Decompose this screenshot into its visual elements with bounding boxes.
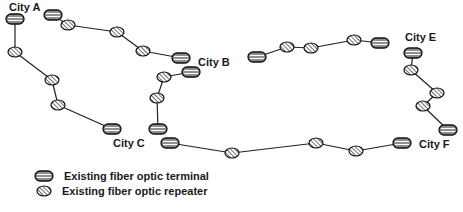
legend-repeater-icon (37, 186, 51, 196)
fiber-link-city-a-to-city-c-1 (15, 52, 52, 80)
legend-label-terminal: Existing fiber optic terminal (64, 170, 209, 182)
fiber-repeater-icon (61, 20, 75, 30)
fiber-terminal-icon (103, 124, 121, 134)
fiber-repeater-icon (110, 27, 124, 37)
city-label-b: City B (198, 56, 230, 68)
fiber-terminal-icon (248, 52, 266, 62)
fiber-terminal-icon (404, 48, 422, 58)
fiber-link-city-c-to-city-f-1 (232, 143, 316, 153)
city-label-c: City C (113, 137, 145, 149)
fiber-terminal-icon (371, 38, 389, 48)
city-label-e: City E (405, 31, 436, 43)
legend-label-repeater: Existing fiber optic repeater (62, 185, 208, 197)
fiber-repeater-icon (45, 75, 59, 85)
fiber-repeater-icon (136, 46, 150, 56)
fiber-links (15, 15, 448, 153)
fiber-repeater-icon (309, 138, 323, 148)
legend-terminal-icon (35, 171, 53, 181)
fiber-repeater-icon (157, 72, 171, 82)
fiber-repeater-icon (225, 148, 239, 158)
fiber-repeater-icon (416, 101, 430, 111)
fiber-terminal-icon (182, 67, 200, 77)
fiber-terminal-icon (6, 14, 24, 24)
fiber-repeater-icon (404, 65, 418, 75)
fiber-terminal-icon (161, 138, 179, 148)
fiber-terminal-icon (149, 124, 167, 134)
fiber-repeater-icon (347, 35, 361, 45)
fiber-repeater-icon (280, 42, 294, 52)
fiber-repeater-icon (349, 146, 363, 156)
fiber-repeater-icon (304, 43, 318, 53)
legend: Existing fiber optic terminalExisting fi… (35, 170, 209, 197)
fiber-terminal-icon (44, 10, 62, 20)
city-label-a: City A (9, 1, 40, 13)
fiber-repeater-icon (430, 88, 444, 98)
fiber-terminal-icon (439, 125, 457, 135)
fiber-repeater-icon (51, 100, 65, 110)
fiber-terminal-icon (172, 53, 190, 63)
fiber-nodes (6, 10, 457, 158)
fiber-terminal-icon (393, 138, 411, 148)
fiber-network-diagram: City ACity BCity CCity ECity F Existing … (0, 0, 463, 212)
city-label-f: City F (419, 138, 450, 150)
fiber-repeater-icon (8, 47, 22, 57)
fiber-repeater-icon (150, 93, 164, 103)
